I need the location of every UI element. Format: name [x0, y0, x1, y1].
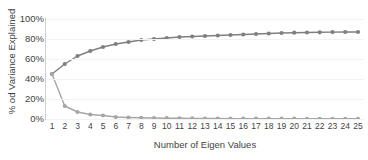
data-point-marker	[190, 34, 194, 38]
data-point-marker	[318, 30, 322, 34]
y-axis-tick-label: 80%	[2, 34, 44, 44]
data-point-marker	[63, 62, 67, 66]
chart-title: Scree Plot/Curve	[0, 0, 368, 3]
data-point-marker	[203, 34, 207, 38]
data-point-marker	[101, 113, 105, 117]
data-point-marker	[279, 31, 283, 35]
data-series-layer	[46, 19, 364, 119]
data-point-marker	[63, 104, 67, 108]
data-point-marker	[356, 30, 360, 34]
x-axis-title: Number of Eigen Values	[46, 139, 364, 150]
data-point-marker	[50, 72, 54, 76]
y-axis-tick-label: 0%	[2, 114, 44, 124]
x-axis-tick-labels: 1234567891011121314151617181920212223242…	[46, 121, 364, 133]
y-axis-tick-label: 20%	[2, 94, 44, 104]
gridline	[46, 119, 364, 120]
data-point-marker	[292, 31, 296, 35]
data-point-marker	[254, 32, 258, 36]
gridline	[46, 79, 364, 80]
data-series	[50, 30, 360, 76]
data-point-marker	[343, 30, 347, 34]
y-axis-tick-label: 100%	[2, 14, 44, 24]
data-point-marker	[75, 54, 79, 58]
data-point-marker	[241, 32, 245, 36]
data-point-marker	[88, 112, 92, 116]
gridline	[46, 59, 364, 60]
data-point-marker	[75, 110, 79, 114]
series-line	[52, 74, 358, 119]
data-point-marker	[216, 33, 220, 37]
y-axis-tick-labels: 100%80%60%40%20%0%	[0, 0, 44, 160]
data-point-marker	[330, 30, 334, 34]
data-point-marker	[228, 33, 232, 37]
y-axis-tick-label: 40%	[2, 74, 44, 84]
data-point-marker	[101, 45, 105, 49]
gridline	[46, 19, 364, 20]
data-point-marker	[126, 40, 130, 44]
data-point-marker	[114, 42, 118, 46]
data-point-marker	[305, 30, 309, 34]
gridline	[46, 39, 364, 40]
plot-area	[46, 19, 364, 119]
data-point-marker	[88, 49, 92, 53]
x-axis-tick-label: 25	[350, 121, 366, 132]
data-point-marker	[267, 31, 271, 35]
y-axis-tick-label: 60%	[2, 54, 44, 64]
scree-plot-chart: Scree Plot/Curve % od Variance Explained…	[0, 0, 368, 160]
gridline	[46, 99, 364, 100]
